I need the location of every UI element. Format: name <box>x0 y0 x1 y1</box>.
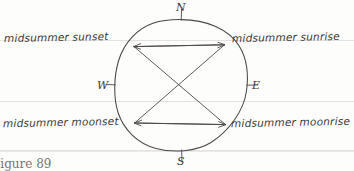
label-midsummer-moonset: midsummer moonset <box>3 115 119 129</box>
figure-caption: Figure 89 <box>0 157 52 171</box>
cardinal-label-north: N <box>176 1 186 14</box>
crossing-sightlines <box>134 45 226 125</box>
figure-canvas: midsummer sunset midsummer sunrise midsu… <box>0 0 354 171</box>
cardinal-label-west: W <box>97 79 108 92</box>
lunar-alignment-axis <box>135 123 226 125</box>
label-midsummer-moonrise: midsummer moonrise <box>231 115 350 129</box>
horizon-circle <box>115 20 248 151</box>
label-midsummer-sunset: midsummer sunset <box>4 30 109 44</box>
cardinal-label-south: S <box>177 155 185 168</box>
cardinal-label-east: E <box>252 79 260 92</box>
solar-alignment-axis <box>134 45 225 47</box>
label-midsummer-sunrise: midsummer sunrise <box>232 30 340 44</box>
horizon-circle-diagram <box>0 0 354 171</box>
